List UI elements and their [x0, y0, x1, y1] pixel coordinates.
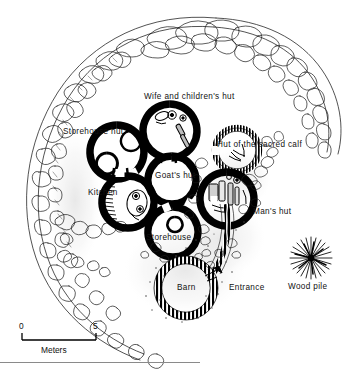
scale-bar-end-label: 5: [93, 322, 98, 330]
label-goats-hut: Goat's hut: [155, 172, 196, 180]
label-wife-and-childrens-hut: Wife and children's hut: [144, 93, 235, 101]
label-mans-hut: Man's hut: [253, 208, 291, 216]
footer-divider: [0, 362, 200, 363]
scale-bar-unit-label: Meters: [41, 346, 67, 354]
label-storehouse-hut: Storehouse hut: [63, 128, 123, 136]
label-barn: Barn: [177, 284, 196, 292]
label-entrance: Entrance: [229, 284, 265, 292]
scale-bar: [22, 333, 96, 340]
site-plan-figure: Wife and children's hut Storehouse hut H…: [0, 0, 349, 377]
scale-bar-start-label: 0: [19, 322, 24, 330]
label-storehouse: Storehouse: [146, 234, 191, 242]
label-hut-of-the-sacred-calf: Hut of the sacred calf: [217, 141, 302, 149]
label-kitchen: Kitchen: [88, 189, 118, 197]
label-wood-pile: Wood pile: [288, 283, 327, 291]
site-plan-drawing: [0, 0, 349, 377]
wood-pile-icon: [290, 237, 332, 279]
